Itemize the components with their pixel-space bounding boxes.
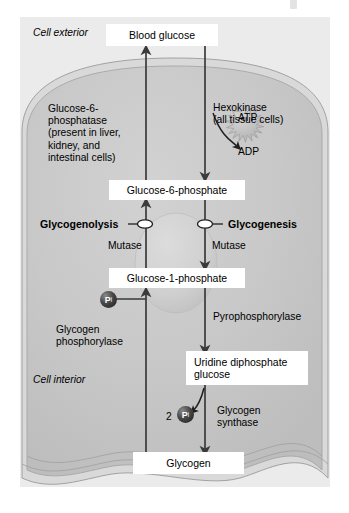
label-glucose-1-phosphate: Glucose-1-phosphate bbox=[127, 272, 227, 285]
glycogen-synthase-line-1: Glycogen bbox=[217, 405, 295, 417]
label-glycogenolysis: Glycogenolysis bbox=[40, 218, 118, 230]
label-glucose-6-phosphate: Glucose-6-phosphate bbox=[127, 184, 227, 197]
phosphate-icon-glycogen-phosphorylase: Pi bbox=[100, 291, 117, 308]
label-pyrophosphorylase: Pyrophosphorylase bbox=[213, 311, 301, 323]
g6pase-line-3: (present in liver, bbox=[48, 127, 140, 139]
label-mutase-right: Mutase bbox=[212, 240, 246, 252]
diagram-graphics-layer bbox=[0, 0, 349, 513]
label-pi-count: 2 bbox=[166, 411, 172, 423]
label-blood-glucose: Blood glucose bbox=[129, 29, 195, 42]
g6pase-line-5: intestinal cells) bbox=[48, 152, 140, 164]
glycogen-phosphorylase-line-2: phosphorylase bbox=[56, 336, 146, 348]
glycogen-synthase-line-2: synthase bbox=[217, 417, 295, 429]
label-adp: ADP bbox=[238, 146, 259, 158]
phosphate-icon-glycogen-synthase: Pi bbox=[177, 406, 194, 423]
pi-subscript-2: i bbox=[188, 411, 189, 418]
label-hexokinase: Hexokinase (all tissue cells) bbox=[213, 102, 305, 126]
pi-subscript: i bbox=[111, 296, 112, 303]
label-atp: ATP bbox=[238, 112, 257, 123]
box-glycogen: Glycogen bbox=[133, 452, 244, 474]
label-glycogen-phosphorylase: Glycogen phosphorylase bbox=[56, 324, 146, 348]
box-glucose-1-phosphate: Glucose-1-phosphate bbox=[109, 268, 245, 288]
g6pase-line-4: kidney, and bbox=[48, 140, 140, 152]
g6pase-line-1: Glucose-6- bbox=[48, 103, 140, 115]
pathway-figure: Blood glucose Glucose-6-phosphate Glucos… bbox=[0, 0, 349, 513]
box-glucose-6-phosphate: Glucose-6-phosphate bbox=[109, 180, 245, 200]
label-glucose-6-phosphatase: Glucose-6- phosphatase (present in liver… bbox=[48, 103, 140, 164]
label-udp-glucose: Uridine diphosphate glucose bbox=[194, 356, 302, 381]
g6pase-line-2: phosphatase bbox=[48, 115, 140, 127]
label-cell-interior: Cell interior bbox=[33, 374, 85, 386]
hexokinase-line-1: Hexokinase bbox=[213, 102, 305, 114]
box-blood-glucose: Blood glucose bbox=[106, 24, 218, 46]
label-glycogen: Glycogen bbox=[166, 457, 210, 470]
label-glycogenesis: Glycogenesis bbox=[228, 218, 297, 230]
box-udp-glucose: Uridine diphosphate glucose bbox=[186, 351, 308, 385]
label-mutase-left: Mutase bbox=[108, 240, 142, 252]
label-cell-exterior: Cell exterior bbox=[33, 27, 88, 39]
label-glycogen-synthase: Glycogen synthase bbox=[217, 405, 295, 429]
hexokinase-line-2: (all tissue cells) bbox=[213, 114, 305, 126]
glycogen-phosphorylase-line-1: Glycogen bbox=[56, 324, 146, 336]
